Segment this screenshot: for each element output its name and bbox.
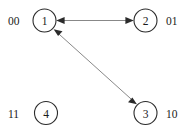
state-diagram: 1 2 3 4 00 01 11 10 (0, 0, 195, 135)
edge-1-3-arrowhead-at-1 (54, 29, 63, 36)
node-3-label: 3 (143, 108, 149, 120)
node-2[interactable]: 2 (134, 9, 157, 32)
graph-canvas: 1 2 3 4 00 01 11 10 (0, 0, 195, 135)
edge-1-3-arrowhead-at-3 (128, 97, 137, 104)
edge-1-2 (56, 17, 134, 24)
corner-label-01: 01 (166, 15, 178, 27)
node-4[interactable]: 4 (35, 102, 58, 125)
edge-1-3-line (57, 32, 134, 101)
edge-1-2-arrowhead-at-2 (125, 17, 133, 24)
edge-1-3 (54, 29, 137, 104)
node-2-label: 2 (143, 15, 149, 27)
node-4-label: 4 (43, 108, 49, 120)
node-1-label: 1 (42, 15, 48, 27)
edge-1-2-arrowhead-at-1 (56, 17, 64, 24)
corner-label-00: 00 (8, 15, 20, 27)
corner-label-10: 10 (166, 108, 178, 120)
node-1[interactable]: 1 (33, 9, 56, 32)
node-3[interactable]: 3 (134, 102, 157, 125)
corner-label-11: 11 (8, 108, 19, 120)
